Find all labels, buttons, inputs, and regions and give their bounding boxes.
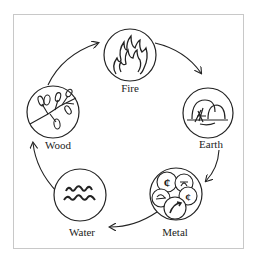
svg-text:¢: ¢	[185, 191, 191, 203]
arrow-metal-to-water	[110, 212, 157, 227]
water-node: Water	[54, 169, 106, 238]
fire-label: Fire	[121, 82, 139, 94]
arrow-wood-to-fire	[48, 43, 98, 85]
water-label: Water	[69, 226, 95, 238]
arrow-fire-to-earth	[155, 43, 201, 73]
earth-node: Earth	[183, 88, 233, 150]
wood-node: Wood	[27, 86, 79, 151]
wood-label: Wood	[45, 139, 72, 151]
earth-label: Earth	[199, 138, 223, 150]
five-elements-cycle-diagram: Fire Earth ¢ ¢ Metal	[0, 0, 257, 267]
metal-node: ¢ ¢ Metal	[150, 168, 202, 238]
arrow-earth-to-metal	[206, 150, 219, 181]
metal-label: Metal	[162, 226, 188, 238]
svg-text:¢: ¢	[164, 175, 171, 190]
fire-node: Fire	[104, 29, 156, 94]
